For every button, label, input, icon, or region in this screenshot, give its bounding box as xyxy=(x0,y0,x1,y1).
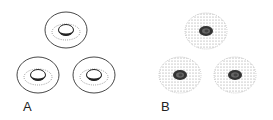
panel-b-label: B xyxy=(161,99,170,114)
panel-a-label: A xyxy=(23,99,32,114)
cell-a-left xyxy=(17,57,59,93)
cell-a-right xyxy=(73,57,115,93)
cell-a-top xyxy=(45,12,87,48)
cell-diagram xyxy=(0,0,273,120)
panel-a-cells xyxy=(17,12,115,93)
cell-b-top xyxy=(185,13,227,49)
cell-b-right xyxy=(214,57,256,93)
cell-b-left xyxy=(159,57,201,93)
panel-b-cells xyxy=(159,13,256,93)
